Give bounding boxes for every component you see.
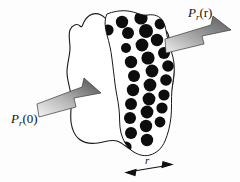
scatterer-dot bbox=[116, 16, 128, 28]
scatterer-dot bbox=[124, 112, 136, 124]
transmitted-power-arg: (r) bbox=[199, 5, 212, 20]
scatterer-dot bbox=[162, 60, 174, 72]
scatterer-dot bbox=[121, 43, 131, 53]
scatterer-dot bbox=[127, 84, 139, 96]
scatterer-dot bbox=[146, 65, 159, 78]
scatterer-dot bbox=[134, 11, 147, 24]
scatterer-dot bbox=[122, 27, 134, 39]
scatterer-dot bbox=[144, 79, 157, 92]
scatterer-dot bbox=[140, 120, 152, 132]
scatterer-dot bbox=[141, 106, 154, 119]
scatterer-dot bbox=[136, 39, 149, 52]
incident-power-base: P bbox=[11, 111, 19, 126]
scatterer-dot bbox=[125, 56, 137, 68]
transmitted-power-label: Pr(r) bbox=[188, 6, 212, 22]
incident-power-label: Pr(0) bbox=[11, 112, 38, 128]
scatterer-dot bbox=[158, 89, 169, 100]
scatterer-dot bbox=[125, 98, 137, 110]
scatterer-dot bbox=[143, 93, 156, 106]
scatterer-dot bbox=[160, 74, 172, 86]
transmitted-power-base: P bbox=[188, 5, 196, 20]
scatterer-dot bbox=[141, 51, 154, 64]
scatterer-dot bbox=[141, 134, 153, 146]
thickness-label: r bbox=[145, 155, 149, 166]
scatterer-dot bbox=[139, 24, 153, 38]
scattering-medium-diagram bbox=[0, 0, 240, 182]
scatterer-dot bbox=[128, 70, 140, 82]
scatterer-dot bbox=[156, 102, 167, 113]
incident-power-arg: (0) bbox=[22, 111, 37, 126]
scatterer-dot bbox=[125, 127, 137, 139]
scatterer-dot bbox=[155, 19, 166, 30]
scatterer-dot bbox=[151, 34, 163, 46]
scatterer-dot bbox=[155, 117, 166, 128]
